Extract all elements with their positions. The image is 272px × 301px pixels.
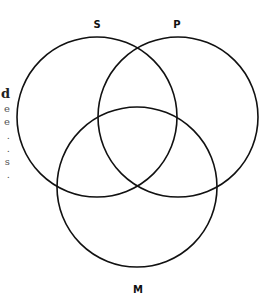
label-p: P: [173, 19, 180, 30]
circle-p: [98, 37, 258, 197]
label-m: M: [133, 284, 143, 295]
label-s: S: [93, 19, 100, 30]
venn-diagram: S P M: [0, 0, 272, 301]
